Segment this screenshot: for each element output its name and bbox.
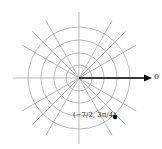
polar-grid bbox=[0, 0, 162, 149]
point-label: (−7/2, 3π/4) bbox=[73, 111, 116, 119]
arrow-head-icon bbox=[144, 75, 152, 82]
polar-axis-label: 0 bbox=[154, 72, 159, 81]
